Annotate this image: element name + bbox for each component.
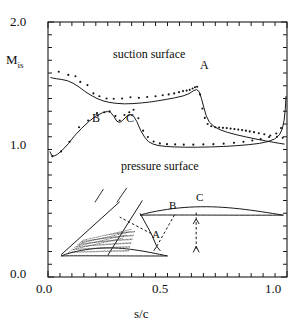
expansion-wave-2 — [114, 229, 125, 240]
inlet-oblique-line — [61, 202, 120, 255]
data-point — [218, 127, 220, 129]
data-point — [146, 96, 148, 98]
x-tick-label-1: 0.5 — [152, 281, 168, 297]
data-point — [51, 155, 53, 157]
annotation-c-inset: C — [196, 191, 203, 203]
data-point — [121, 97, 123, 99]
data-point — [153, 141, 155, 143]
data-point — [159, 142, 161, 144]
data-point — [114, 115, 116, 117]
y-tick-label-1: 1.0 — [10, 137, 26, 153]
data-point — [166, 143, 168, 145]
data-point — [174, 143, 176, 145]
data-point — [282, 137, 284, 139]
data-point — [201, 107, 203, 109]
data-point — [196, 86, 198, 88]
data-point — [237, 129, 239, 131]
series-0 — [50, 77, 284, 144]
data-point — [106, 97, 108, 99]
y-axis-label: Mis — [6, 52, 24, 70]
data-point — [119, 119, 121, 121]
shock-C-arrow-bottom — [193, 246, 199, 252]
expansion-wave — [105, 233, 115, 252]
blade-profile — [140, 207, 283, 215]
data-point — [199, 93, 201, 95]
data-point — [147, 136, 149, 138]
annotation-pressure-surface: pressure surface — [121, 159, 199, 174]
data-point — [173, 92, 175, 94]
data-point — [222, 127, 224, 129]
data-point — [142, 130, 144, 132]
data-point — [129, 96, 131, 98]
series-line — [50, 77, 284, 144]
data-point — [92, 92, 94, 94]
series-3 — [51, 109, 282, 158]
data-point — [245, 130, 247, 132]
leader-pressure — [95, 189, 104, 202]
annotation-b-inset: B — [169, 199, 176, 211]
data-point — [210, 125, 212, 127]
data-point — [202, 143, 204, 145]
y-tick-label-0: 0.0 — [10, 266, 26, 282]
data-point — [233, 142, 235, 144]
data-point — [58, 71, 60, 73]
leader-pressure-2 — [117, 188, 127, 203]
annotation-leaders — [95, 188, 127, 203]
data-point — [189, 89, 191, 91]
annotation-a-inset: A — [152, 228, 160, 240]
data-point — [60, 150, 62, 152]
data-point — [178, 91, 180, 93]
annotation-suction-surface: suction surface — [113, 47, 185, 62]
x-tick-label-2: 1.0 — [265, 281, 281, 297]
data-point — [223, 143, 225, 145]
data-point — [280, 127, 282, 129]
y-tick-label-2: 2.0 — [10, 14, 26, 30]
data-point — [249, 130, 251, 132]
data-point — [251, 140, 253, 142]
data-point — [182, 90, 184, 92]
data-point — [162, 94, 164, 96]
data-point — [98, 95, 100, 97]
data-point — [186, 90, 188, 92]
data-point — [113, 98, 115, 100]
annotation-b-curve: B — [92, 111, 100, 126]
x-tick-label-0: 0.0 — [36, 281, 52, 297]
data-point — [103, 111, 105, 113]
data-point — [275, 133, 277, 135]
data-point — [192, 88, 194, 90]
series-1 — [58, 71, 284, 139]
data-point — [212, 143, 214, 145]
expansion-wave — [99, 235, 110, 253]
data-point — [109, 110, 111, 112]
data-point — [233, 128, 235, 130]
data-point — [78, 126, 80, 128]
data-point — [86, 84, 88, 86]
data-point — [263, 133, 265, 135]
data-point — [155, 95, 157, 97]
annotation-a-curve: A — [200, 58, 209, 73]
data-point — [67, 74, 69, 76]
data-point — [79, 81, 81, 83]
data-point — [258, 132, 260, 134]
series-2 — [50, 96, 286, 156]
data-point — [183, 144, 185, 146]
data-point — [207, 123, 209, 125]
data-point — [268, 136, 270, 138]
data-point — [87, 119, 89, 121]
data-point — [74, 75, 76, 77]
data-point — [230, 128, 232, 130]
data-point — [194, 86, 196, 88]
figure-mis-vs-sc: Mis s/c 2.0 1.0 0.0 0.0 0.5 1.0 suction … — [0, 0, 300, 329]
shock-A-foot — [154, 246, 161, 250]
data-point — [68, 141, 70, 143]
data-point — [260, 138, 262, 140]
series-line — [50, 96, 286, 156]
data-point — [253, 131, 255, 133]
data-point — [137, 117, 139, 119]
data-point — [192, 144, 194, 146]
data-point — [214, 126, 216, 128]
data-point — [226, 127, 228, 129]
annotation-c-curve: C — [126, 111, 134, 126]
data-point — [168, 93, 170, 95]
data-point — [242, 141, 244, 143]
